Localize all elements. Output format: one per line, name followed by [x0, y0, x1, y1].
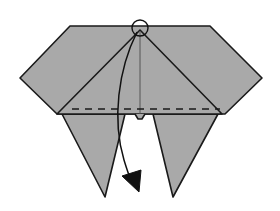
left-point-flap [62, 114, 125, 197]
diagram-canvas [0, 0, 280, 211]
center-notch [135, 114, 145, 119]
right-point-flap [153, 114, 218, 197]
origami-diagram [0, 0, 280, 211]
fold-arrow-head-icon [122, 170, 141, 192]
